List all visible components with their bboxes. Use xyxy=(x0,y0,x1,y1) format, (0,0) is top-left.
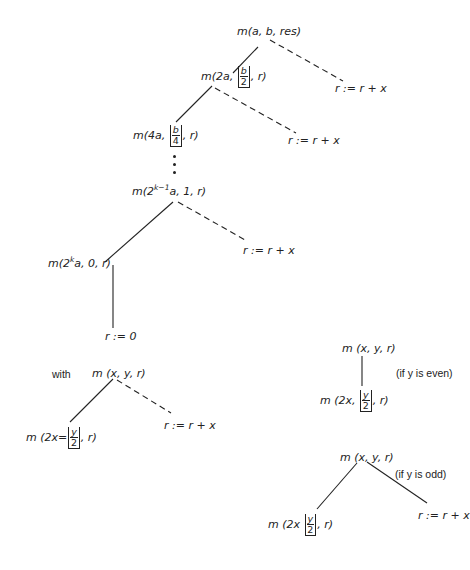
even-root: m (x, y, r) xyxy=(342,343,395,354)
edge-with-dashed xyxy=(117,380,171,413)
odd-condition: (if y is odd) xyxy=(395,469,446,480)
with-accum: r := r + x xyxy=(164,420,216,431)
with-child: m (2x=y2, r) xyxy=(26,427,97,449)
floor-bracket: b2 xyxy=(238,66,250,88)
floor-bracket: y2 xyxy=(305,514,317,536)
node-level1: m(2a, b2, r) xyxy=(201,66,267,88)
edge-odd-left xyxy=(317,463,357,509)
edge-levelk1-to-levelk xyxy=(105,202,173,262)
node-accum-2: r := r + x xyxy=(288,135,340,146)
node-accum-3: r := r + x xyxy=(243,245,295,256)
floor-bracket: y2 xyxy=(68,427,80,449)
even-condition: (if y is even) xyxy=(396,368,453,379)
ellipsis-dot xyxy=(173,163,176,166)
edge-levelk1-to-accum xyxy=(178,202,247,241)
edge-level1-to-accum xyxy=(215,88,296,133)
node-leaf-reset: r := 0 xyxy=(105,331,136,342)
odd-root: m (x, y, r) xyxy=(340,452,393,463)
odd-accum: r := r + x xyxy=(418,510,470,521)
edge-level1-to-level2 xyxy=(176,86,212,122)
edge-with-solid xyxy=(70,379,113,422)
node-level-k: m(2ka, 0, r) xyxy=(48,256,111,269)
node-level-k-minus-1: m(2k−1a, 1, r) xyxy=(132,184,206,197)
floor-bracket: b4 xyxy=(170,125,182,147)
floor-bracket: y2 xyxy=(360,390,372,412)
even-child: m (2x, y2, r) xyxy=(320,390,388,412)
node-root: m(a, b, res) xyxy=(237,26,301,37)
with-keyword: with xyxy=(52,369,71,380)
node-level2: m(4a, b4, r) xyxy=(133,125,199,147)
ellipsis-dot xyxy=(173,155,176,158)
node-accum-1: r := r + x xyxy=(335,83,387,94)
ellipsis-dot xyxy=(173,171,176,174)
with-root: m (x, y, r) xyxy=(92,368,145,379)
edge-root-to-accum xyxy=(270,40,343,81)
odd-child: m (2x y2, r) xyxy=(268,514,333,536)
